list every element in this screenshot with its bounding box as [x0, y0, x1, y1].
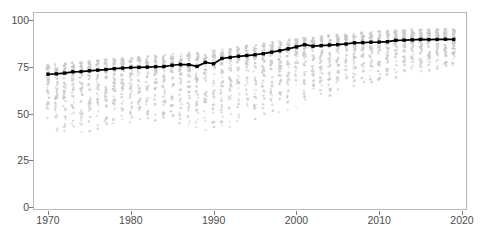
scatter-point: [361, 33, 363, 35]
scatter-point: [114, 107, 116, 109]
scatter-point: [113, 58, 116, 61]
scatter-point: [178, 112, 181, 115]
scatter-point: [130, 78, 133, 81]
scatter-point: [46, 76, 48, 78]
y-tick-mark: [29, 114, 33, 115]
scatter-point: [54, 87, 57, 90]
scatter-point: [221, 106, 224, 109]
scatter-point: [129, 74, 131, 76]
scatter-point: [238, 116, 241, 119]
scatter-point: [195, 72, 198, 75]
scatter-point: [321, 40, 324, 43]
scatter-point: [454, 55, 456, 57]
mean-marker: [253, 53, 256, 56]
scatter-point: [212, 81, 214, 83]
scatter-point: [203, 110, 205, 112]
scatter-point: [64, 107, 67, 110]
scatter-point: [145, 61, 148, 64]
scatter-point: [238, 76, 240, 78]
scatter-point: [288, 78, 291, 81]
scatter-point: [395, 48, 398, 51]
scatter-point: [229, 81, 232, 84]
x-tick-label-2020: 2020: [437, 215, 482, 226]
scatter-point: [63, 90, 65, 92]
mean-marker: [452, 38, 455, 41]
scatter-point: [305, 71, 307, 73]
y-tick-mark: [29, 67, 33, 68]
scatter-point: [71, 122, 74, 125]
scatter-point: [179, 118, 182, 121]
mean-marker: [129, 66, 132, 69]
mean-marker: [262, 52, 265, 55]
scatter-point: [187, 115, 190, 118]
scatter-point: [295, 79, 298, 82]
scatter-point: [229, 67, 232, 70]
x-tick-label-2000: 2000: [271, 215, 321, 226]
scatter-point: [319, 57, 322, 60]
x-tick-mark: [379, 211, 380, 215]
scatter-point: [81, 94, 84, 97]
mean-marker: [303, 43, 306, 46]
scatter-point: [403, 33, 406, 36]
scatter-point: [96, 115, 98, 117]
scatter-point: [419, 52, 422, 55]
scatter-point: [87, 60, 90, 63]
scatter-point: [129, 58, 131, 60]
scatter-point: [64, 63, 67, 66]
scatter-point: [56, 127, 59, 130]
scatter-point: [288, 52, 291, 55]
mean-marker: [195, 65, 198, 68]
scatter-point: [63, 69, 66, 72]
scatter-point: [346, 49, 348, 51]
scatter-point: [105, 118, 108, 121]
scatter-point: [171, 96, 174, 99]
scatter-point: [321, 72, 324, 75]
scatter-point: [88, 131, 90, 133]
scatter-point: [163, 79, 166, 82]
scatter-point: [46, 68, 49, 71]
scatter-point: [96, 77, 99, 80]
scatter-point: [246, 76, 249, 79]
scatter-point: [72, 74, 75, 77]
scatter-point: [189, 56, 192, 59]
scatter-point: [188, 123, 190, 125]
scatter-point: [180, 103, 183, 106]
scatter-point: [129, 76, 132, 79]
scatter-point: [170, 70, 173, 73]
scatter-point: [345, 58, 347, 60]
scatter-point: [287, 71, 290, 74]
scatter-point: [230, 98, 232, 100]
scatter-point: [56, 113, 59, 116]
scatter-point: [88, 88, 90, 90]
scatter-point: [154, 98, 156, 100]
scatter-point: [139, 58, 142, 61]
scatter-point: [295, 84, 297, 86]
scatter-point: [97, 99, 99, 101]
scatter-point: [312, 75, 315, 78]
scatter-point: [228, 96, 231, 99]
scatter-point: [204, 69, 206, 71]
scatter-point: [396, 36, 398, 38]
scatter-point: [253, 89, 255, 91]
mean-marker: [245, 54, 248, 57]
scatter-point: [113, 70, 116, 73]
scatter-point: [96, 93, 98, 95]
scatter-point: [131, 108, 133, 110]
scatter-point: [262, 85, 264, 87]
scatter-point: [445, 55, 447, 57]
scatter-point: [213, 96, 216, 99]
scatter-point: [377, 51, 380, 54]
scatter-point: [377, 63, 380, 66]
scatter-point: [147, 90, 149, 92]
mean-marker: [435, 38, 438, 41]
scatter-point: [412, 65, 414, 67]
scatter-point: [147, 87, 149, 89]
scatter-point: [428, 31, 431, 34]
scatter-point: [72, 89, 75, 92]
scatter-point: [245, 50, 247, 52]
scatter-point: [271, 76, 274, 79]
scatter-point: [131, 90, 133, 92]
scatter-point: [294, 75, 296, 77]
scatter-point: [288, 50, 290, 52]
y-tick-mark: [29, 160, 33, 161]
